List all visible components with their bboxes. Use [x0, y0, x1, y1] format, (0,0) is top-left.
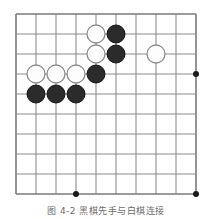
white-stone[interactable]	[87, 25, 105, 43]
black-stone[interactable]	[67, 85, 85, 103]
white-stone[interactable]	[67, 65, 85, 83]
star-point	[193, 191, 199, 197]
go-diagram-figure: 图 4-2 黑棋先手与白棋连接	[0, 0, 212, 219]
white-stone[interactable]	[47, 65, 65, 83]
star-point	[193, 71, 199, 77]
white-stone[interactable]	[147, 45, 165, 63]
black-stone[interactable]	[107, 45, 125, 63]
black-stone[interactable]	[87, 65, 105, 83]
white-stone[interactable]	[87, 45, 105, 63]
go-board[interactable]	[0, 0, 212, 200]
star-point	[73, 191, 79, 197]
figure-caption: 图 4-2 黑棋先手与白棋连接	[0, 206, 212, 217]
black-stone[interactable]	[47, 85, 65, 103]
black-stone[interactable]	[27, 85, 45, 103]
board-gridlines	[16, 14, 196, 194]
white-stone[interactable]	[27, 65, 45, 83]
black-stone[interactable]	[107, 25, 125, 43]
